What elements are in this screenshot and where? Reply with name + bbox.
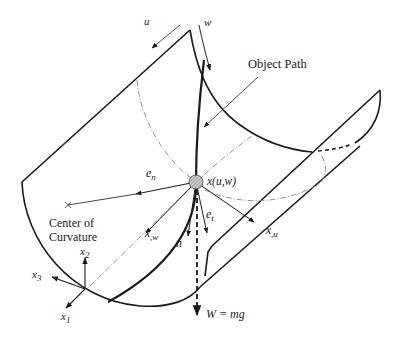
x-u-vector <box>196 182 254 222</box>
x2-label: x2 <box>79 245 90 260</box>
x3-axis <box>52 277 85 289</box>
front-lower-edge <box>200 146 360 287</box>
e-t-label: et <box>206 207 214 223</box>
x-u-label: x,u <box>265 224 278 239</box>
right-cross-section <box>355 90 380 143</box>
x-w-label: x,w <box>144 227 158 242</box>
u-arrow <box>152 25 180 48</box>
center-of-curvature-label-1: Center of <box>49 216 94 230</box>
w-label: w <box>204 16 212 28</box>
trough-surface <box>22 30 380 306</box>
vectors <box>68 182 254 315</box>
left-cross-section <box>22 182 200 306</box>
x-w-vector <box>146 182 196 233</box>
front-top-edge <box>212 90 380 246</box>
n-vector <box>188 182 196 236</box>
right-hidden-edge <box>318 144 352 151</box>
e-n-vector <box>136 182 196 194</box>
back-top-edge <box>22 30 190 182</box>
back-curved-edge <box>190 30 312 152</box>
center-line <box>68 194 136 205</box>
weight-label: W = mg <box>206 307 245 321</box>
center-of-curvature-label-2: Curvature <box>49 230 97 244</box>
x1-axis <box>66 289 85 308</box>
position-label: x(u,w) <box>206 175 236 188</box>
n-label: n <box>176 236 182 250</box>
object-path-pointer <box>204 77 258 127</box>
e-n-label: en <box>146 166 156 182</box>
u-label: u <box>144 15 150 27</box>
object-path-label: Object Path <box>248 57 307 71</box>
curved-trough-diagram: u w Object Path en x(u,w) et x,w n x,u C… <box>0 0 399 341</box>
x1-label: x1 <box>60 310 70 325</box>
x3-label: x3 <box>31 268 42 283</box>
object-ball <box>189 175 203 189</box>
